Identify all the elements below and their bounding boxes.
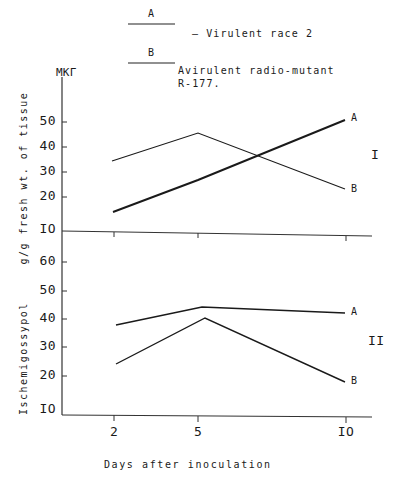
panel-label-ii: II	[368, 333, 385, 348]
legend-description-b-line2: R-177.	[178, 77, 221, 90]
panel-i-series-b-line	[112, 133, 345, 189]
legend-description-b: Avirulent radio-mutant	[178, 64, 335, 77]
x-axis-title: Days after inoculation	[104, 459, 272, 470]
panel-ii-series-b-line	[116, 318, 345, 382]
panel-ii-y-ticks	[62, 262, 67, 376]
y-tick-label: IO	[30, 401, 56, 416]
x-tick-label: IO	[331, 424, 361, 439]
x-axis	[62, 415, 372, 417]
panel-i-series-a-label: A	[351, 112, 357, 123]
panel-i-series-b-label: B	[351, 183, 357, 194]
panel-ii-series-a-line	[116, 307, 345, 325]
y-tick-label: 40	[30, 310, 56, 325]
axis-unit-note: MKГ	[56, 66, 76, 79]
figure-chart: A – Virulent race 2 B Avirulent radio-mu…	[0, 0, 412, 487]
legend-key-a: A	[148, 8, 155, 19]
y-tick-label: IO	[30, 221, 56, 236]
panel-ii-series-a-label: A	[351, 306, 357, 317]
panel-i-y-ticks	[62, 122, 67, 197]
panel-divider-axis	[62, 231, 372, 236]
legend-key-b: B	[148, 47, 155, 58]
y-tick-label: 30	[30, 163, 56, 178]
y-tick-label: 40	[30, 138, 56, 153]
x-tick-label: 5	[183, 424, 213, 439]
y-axis-title: Ischemigossypol g/g fresh wt. of tissue	[18, 92, 29, 415]
y-tick-label: 20	[30, 188, 56, 203]
y-tick-label: 30	[30, 338, 56, 353]
y-tick-label: 60	[30, 253, 56, 268]
legend-description-a: – Virulent race 2	[192, 27, 313, 40]
x-tick-label: 2	[99, 424, 129, 439]
panel-label-i: I	[371, 147, 379, 162]
y-tick-label: 50	[30, 282, 56, 297]
y-tick-label: 50	[30, 113, 56, 128]
y-tick-label: 20	[30, 367, 56, 382]
panel-ii-series-b-label: B	[351, 375, 357, 386]
panel-i-series-a-line	[113, 120, 345, 212]
